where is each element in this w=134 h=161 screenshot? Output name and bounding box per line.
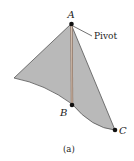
rod-ab-highlight	[72, 24, 73, 104]
point-c	[113, 128, 118, 133]
pivot-leader-line	[73, 26, 92, 36]
label-a: A	[67, 9, 75, 20]
label-pivot: Pivot	[94, 31, 117, 41]
point-a	[69, 22, 74, 27]
pendulum-diagram: A Pivot B C (a)	[0, 0, 134, 161]
label-b: B	[59, 107, 67, 118]
figure-caption: (a)	[63, 144, 75, 154]
label-c: C	[119, 125, 127, 136]
point-b	[70, 103, 75, 108]
